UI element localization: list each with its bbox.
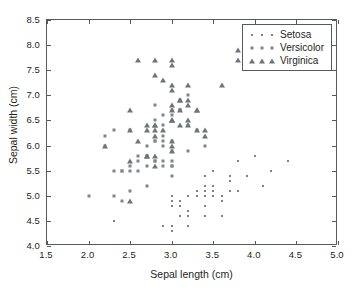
y-tick-mark-right (332, 20, 336, 21)
x-tick-mark (296, 241, 297, 245)
data-point-versicolor (170, 149, 173, 152)
y-tick-mark-right (332, 95, 336, 96)
y-tick-mark (47, 120, 51, 121)
x-tick-mark-top (130, 20, 131, 24)
data-point-setosa (237, 190, 239, 192)
data-point-versicolor (145, 154, 148, 157)
data-point-virginica (144, 128, 150, 133)
data-point-virginica (135, 138, 141, 143)
data-point-versicolor (170, 114, 173, 117)
data-point-virginica (169, 118, 175, 123)
data-point-setosa (254, 155, 256, 157)
x-axis-label: Sepal length (cm) (46, 268, 337, 280)
data-point-setosa (204, 205, 206, 207)
x-tick-mark (338, 241, 339, 245)
x-tick-label: 3.0 (164, 249, 178, 260)
data-point-setosa (187, 210, 189, 212)
data-point-virginica (169, 88, 175, 93)
data-point-versicolor (162, 139, 165, 142)
data-point-virginica (152, 58, 158, 63)
data-point-versicolor (145, 154, 148, 157)
data-point-virginica (169, 148, 175, 153)
data-point-virginica (194, 108, 200, 113)
data-point-virginica (235, 48, 241, 53)
data-point-setosa (221, 195, 223, 197)
data-point-versicolor (170, 164, 173, 167)
data-point-setosa (187, 215, 189, 217)
x-tick-label: 5.0 (330, 249, 344, 260)
y-tick-mark (47, 246, 51, 247)
y-tick-mark-right (332, 146, 336, 147)
data-point-versicolor (87, 194, 90, 197)
data-point-versicolor (154, 104, 157, 107)
data-point-setosa (187, 210, 189, 212)
y-tick-mark (47, 221, 51, 222)
legend-item-versicolor[interactable]: Versicolor (247, 41, 324, 54)
data-point-setosa (246, 175, 248, 177)
data-point-versicolor (154, 139, 157, 142)
data-point-setosa (262, 185, 264, 187)
x-tick-mark (89, 241, 90, 245)
data-point-setosa (237, 160, 239, 162)
data-point-versicolor (120, 199, 123, 202)
data-point-virginica (169, 63, 175, 68)
data-point-versicolor (162, 134, 165, 137)
data-point-virginica (177, 108, 183, 113)
data-point-virginica (144, 153, 150, 158)
y-tick-mark (47, 171, 51, 172)
data-point-versicolor (187, 94, 190, 97)
data-point-versicolor (137, 169, 140, 172)
data-point-virginica (152, 123, 158, 128)
data-point-virginica (219, 83, 225, 88)
data-point-virginica (185, 123, 191, 128)
data-point-setosa (212, 190, 214, 192)
legend-marker-versicolor-icon (247, 41, 277, 54)
data-point-virginica (169, 58, 175, 63)
data-point-versicolor (104, 144, 107, 147)
legend: SetosaVersicolorVirginica (242, 24, 332, 71)
data-point-setosa (204, 205, 206, 207)
data-point-virginica (185, 118, 191, 123)
data-point-setosa (229, 180, 231, 182)
y-tick-mark-right (332, 171, 336, 172)
data-point-setosa (212, 170, 214, 172)
data-point-versicolor (104, 134, 107, 137)
data-point-setosa (221, 215, 223, 217)
data-point-versicolor (170, 139, 173, 142)
data-point-versicolor (170, 174, 173, 177)
data-point-versicolor (137, 159, 140, 162)
data-point-setosa (179, 200, 181, 202)
data-point-virginica (152, 128, 158, 133)
data-point-setosa (187, 225, 189, 227)
x-tick-mark (47, 241, 48, 245)
legend-item-virginica[interactable]: Virginica (247, 54, 324, 67)
data-point-virginica (185, 83, 191, 88)
legend-label: Versicolor (277, 42, 324, 53)
data-point-versicolor (112, 129, 115, 132)
data-point-versicolor (195, 129, 198, 132)
data-point-virginica (102, 143, 108, 148)
y-tick-label: 7.0 (6, 89, 40, 100)
data-point-versicolor (145, 184, 148, 187)
data-point-virginica (235, 58, 241, 63)
data-point-virginica (169, 138, 175, 143)
data-point-setosa (212, 195, 214, 197)
y-tick-mark (47, 146, 51, 147)
data-point-virginica (185, 103, 191, 108)
data-point-versicolor (187, 124, 190, 127)
y-tick-label: 8.0 (6, 39, 40, 50)
data-point-setosa (179, 215, 181, 217)
data-point-setosa (196, 195, 198, 197)
legend-marker-virginica-icon (247, 54, 277, 67)
x-tick-label: 3.5 (206, 249, 220, 260)
y-tick-mark-right (332, 196, 336, 197)
data-point-virginica (127, 158, 133, 163)
data-point-setosa (196, 190, 198, 192)
legend-item-setosa[interactable]: Setosa (247, 28, 324, 41)
data-point-versicolor (179, 99, 182, 102)
y-tick-label: 6.0 (6, 139, 40, 150)
data-point-versicolor (170, 109, 173, 112)
data-point-setosa (171, 205, 173, 207)
data-point-setosa (287, 160, 289, 162)
data-point-versicolor (129, 164, 132, 167)
